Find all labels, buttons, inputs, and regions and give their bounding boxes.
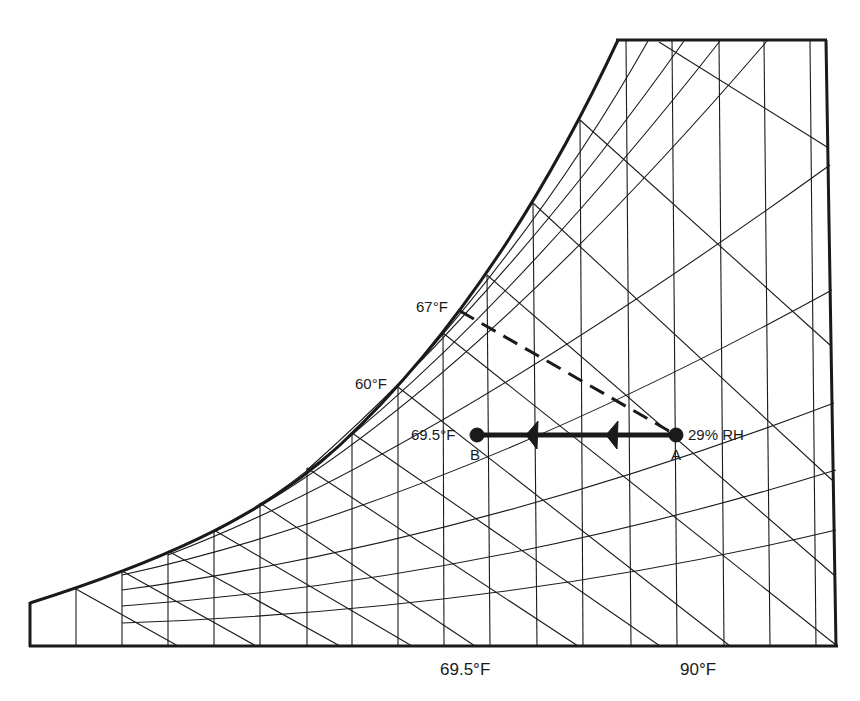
- point-a-marker: [669, 428, 683, 442]
- axis-label-69-5: 69.5°F: [440, 661, 490, 678]
- point-b-label: B: [470, 447, 480, 462]
- point-a-label: A: [671, 447, 681, 462]
- axis-label-90: 90°F: [680, 661, 716, 678]
- psychrometric-chart: [0, 0, 860, 701]
- point-a-rh-label: 29% RH: [688, 427, 744, 442]
- grid-lines: [76, 41, 836, 646]
- point-b-marker: [470, 428, 484, 442]
- relative-humidity-curves: [122, 41, 836, 623]
- dry-bulb-lines: [76, 41, 816, 646]
- wet-bulb-67-label: 67°F: [416, 299, 448, 314]
- arrow-left-icon: [526, 421, 538, 449]
- cooling-process-line: [470, 421, 683, 449]
- saturation-60-label: 60°F: [355, 376, 387, 391]
- point-b-temp-label: 69.5°F: [411, 427, 455, 442]
- arrow-left-icon: [606, 421, 618, 449]
- wet-bulb-67-dashed-line: [460, 311, 676, 435]
